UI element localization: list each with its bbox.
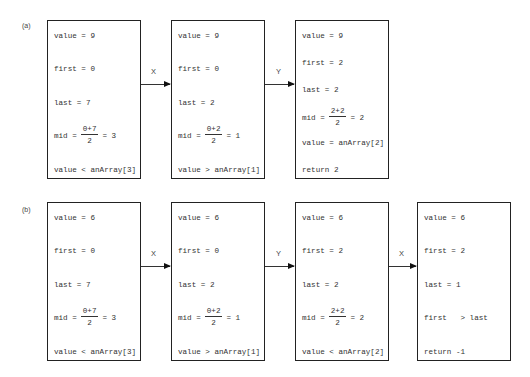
mid-result: = 2 bbox=[350, 314, 364, 323]
fraction-denominator: 2 bbox=[335, 317, 340, 329]
mid-fraction: 0+22 bbox=[205, 307, 223, 329]
comparison-line: value < anArray[3] bbox=[54, 348, 136, 357]
value-line: value = 6 bbox=[424, 214, 465, 223]
part-b-label: (b) bbox=[22, 206, 31, 213]
trace-box-b1: value = 6 first = 0 last = 7 mid = 0+72 … bbox=[47, 202, 141, 361]
arrow-a1 bbox=[141, 84, 170, 85]
last-line: last = 7 bbox=[54, 99, 90, 108]
trace-box-a3: value = 9 first = 2 last = 2 mid = 2+22 … bbox=[295, 20, 389, 179]
value-line: value = 9 bbox=[302, 32, 343, 41]
fraction-numerator: 0+2 bbox=[205, 307, 223, 317]
mid-fraction: 2+22 bbox=[329, 107, 347, 129]
arrow-b1 bbox=[141, 266, 170, 267]
value-line: value = 6 bbox=[302, 214, 343, 223]
fraction-denominator: 2 bbox=[211, 135, 216, 147]
comparison-line: value > anArray[1] bbox=[178, 166, 260, 175]
arrow-label-b3: X bbox=[399, 249, 404, 258]
mid-line: mid = 0+22 = 1 bbox=[178, 125, 240, 147]
arrow-label-b1: X bbox=[151, 249, 156, 258]
first-line: first = 0 bbox=[54, 65, 95, 74]
fraction-denominator: 2 bbox=[335, 117, 340, 129]
first-line: first = 2 bbox=[302, 247, 343, 256]
fraction-numerator: 2+2 bbox=[329, 107, 347, 117]
last-line: last = 2 bbox=[302, 86, 338, 95]
mid-fraction: 2+22 bbox=[329, 307, 347, 329]
last-line: last = 2 bbox=[178, 99, 214, 108]
value-line: value = 9 bbox=[54, 32, 95, 41]
return-line: return -1 bbox=[424, 348, 465, 357]
first-line: first = 0 bbox=[178, 65, 219, 74]
last-line: last = 1 bbox=[424, 281, 460, 290]
trace-box-b3: value = 6 first = 2 last = 2 mid = 2+22 … bbox=[295, 202, 389, 361]
mid-result: = 2 bbox=[350, 114, 364, 123]
comparison-line: value < anArray[2] bbox=[302, 348, 384, 357]
first-line: first = 0 bbox=[178, 247, 219, 256]
arrow-label-b2: Y bbox=[276, 249, 281, 258]
first-line: first = 2 bbox=[302, 59, 343, 68]
arrow-label-a2: Y bbox=[276, 67, 281, 76]
fraction-numerator: 0+7 bbox=[81, 307, 99, 317]
fraction-numerator: 2+2 bbox=[329, 307, 347, 317]
mid-prefix: mid = bbox=[54, 132, 77, 141]
trace-box-b4: value = 6 first = 2 last = 1 first > las… bbox=[417, 202, 511, 361]
arrow-label-a1: X bbox=[151, 67, 156, 76]
value-line: value = 6 bbox=[54, 214, 95, 223]
arrow-b2 bbox=[265, 266, 294, 267]
mid-prefix: mid = bbox=[302, 114, 325, 123]
comparison-line: value > anArray[1] bbox=[178, 348, 260, 357]
trace-box-b2: value = 6 first = 0 last = 2 mid = 0+22 … bbox=[171, 202, 265, 361]
return-line: return 2 bbox=[302, 166, 338, 175]
mid-prefix: mid = bbox=[178, 314, 201, 323]
value-line: value = 9 bbox=[178, 32, 219, 41]
fraction-denominator: 2 bbox=[87, 135, 92, 147]
fraction-numerator: 0+2 bbox=[205, 125, 223, 135]
fraction-denominator: 2 bbox=[87, 317, 92, 329]
mid-prefix: mid = bbox=[302, 314, 325, 323]
mid-prefix: mid = bbox=[178, 132, 201, 141]
comparison-line: value = anArray[2] bbox=[302, 139, 384, 148]
fraction-denominator: 2 bbox=[211, 317, 216, 329]
mid-line: mid = 2+22 = 2 bbox=[302, 307, 364, 329]
first-line: first = 2 bbox=[424, 247, 465, 256]
mid-result: = 3 bbox=[102, 132, 116, 141]
fraction-numerator: 0+7 bbox=[81, 125, 99, 135]
trace-box-a2: value = 9 first = 0 last = 2 mid = 0+22 … bbox=[171, 20, 265, 179]
last-line: last = 2 bbox=[302, 281, 338, 290]
mid-result: = 1 bbox=[226, 132, 240, 141]
arrow-a2 bbox=[265, 84, 294, 85]
mid-line: mid = 0+72 = 3 bbox=[54, 125, 116, 147]
mid-line: mid = 0+72 = 3 bbox=[54, 307, 116, 329]
arrow-b3 bbox=[389, 266, 416, 267]
first-line: first = 0 bbox=[54, 247, 95, 256]
trace-box-a1: value = 9 first = 0 last = 7 mid = 0+72 … bbox=[47, 20, 141, 179]
last-line: last = 7 bbox=[54, 281, 90, 290]
mid-prefix: mid = bbox=[54, 314, 77, 323]
part-a-label: (a) bbox=[22, 22, 31, 29]
mid-fraction: 0+72 bbox=[81, 125, 99, 147]
mid-result: = 1 bbox=[226, 314, 240, 323]
mid-line: mid = 2+22 = 2 bbox=[302, 107, 364, 129]
comparison-line: value < anArray[3] bbox=[54, 166, 136, 175]
last-line: last = 2 bbox=[178, 281, 214, 290]
value-line: value = 6 bbox=[178, 214, 219, 223]
mid-line: mid = 0+22 = 1 bbox=[178, 307, 240, 329]
comparison-line: first > last bbox=[424, 314, 488, 323]
mid-fraction: 0+72 bbox=[81, 307, 99, 329]
mid-result: = 3 bbox=[102, 314, 116, 323]
mid-fraction: 0+22 bbox=[205, 125, 223, 147]
